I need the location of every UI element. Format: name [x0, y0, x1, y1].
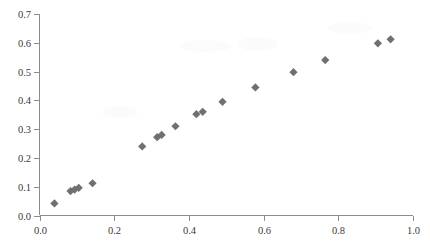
y-tick-label: 0.5 [18, 67, 31, 78]
chart-canvas: 0.00.10.20.30.40.50.60.7 0.00.20.40.60.8… [0, 0, 430, 244]
y-tick-label: 0.7 [18, 9, 31, 20]
x-tick-label: 1.0 [407, 225, 420, 236]
y-tick-label: 0.3 [18, 124, 31, 135]
y-tick-label: 0.2 [18, 153, 31, 164]
y-tick-label: 0.1 [18, 182, 31, 193]
chart-background [0, 0, 430, 244]
y-tick-label: 0.4 [18, 95, 32, 106]
scatter-plot-figure: 0.00.10.20.30.40.50.60.7 0.00.20.40.60.8… [0, 0, 430, 244]
x-tick-label: 0.2 [108, 225, 121, 236]
x-tick-label: 0.0 [34, 225, 47, 236]
x-tick-label: 0.4 [183, 225, 197, 236]
y-tick-label: 0.0 [18, 211, 31, 222]
x-tick-label: 0.6 [258, 225, 271, 236]
x-tick-label: 0.8 [332, 225, 345, 236]
y-tick-label: 0.6 [18, 38, 31, 49]
